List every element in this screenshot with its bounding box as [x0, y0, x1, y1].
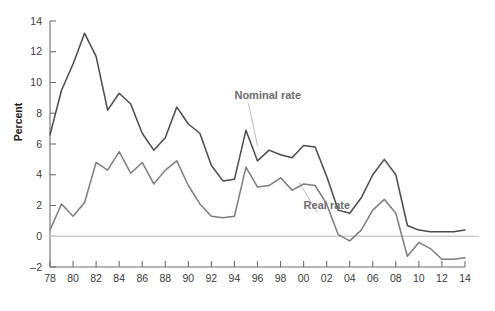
x-axis-tick-label: 86: [136, 272, 148, 284]
x-axis-tick-label: 12: [436, 272, 448, 284]
annotation-label-real-rate: Real rate: [304, 199, 350, 211]
y-axis-tick-label: 10: [30, 76, 42, 88]
x-axis-tick-label: 78: [44, 272, 56, 284]
x-axis-tick-label: 80: [67, 272, 79, 284]
x-axis-tick-label: 00: [298, 272, 310, 284]
y-axis-tick-label: 8: [36, 107, 42, 119]
y-axis-tick-label: 2: [36, 199, 42, 211]
x-axis-tick-label: 04: [344, 272, 356, 284]
y-axis-title: Percent: [12, 102, 24, 141]
annotation-label-nominal-rate: Nominal rate: [234, 89, 301, 101]
interest-rate-line-chart: –202468101214788082848688909294969800020…: [0, 0, 495, 311]
y-axis-tick-label: 6: [36, 138, 42, 150]
y-axis-tick-label: 4: [36, 168, 42, 180]
x-axis-tick-label: 84: [113, 272, 125, 284]
chart-plot-area: –202468101214788082848688909294969800020…: [0, 0, 495, 311]
series-group: [50, 33, 465, 259]
x-axis-tick-label: 82: [90, 272, 102, 284]
x-axis-tick-label: 10: [413, 272, 425, 284]
y-axis-tick-label: –2: [30, 261, 42, 273]
series-line-nominal-rate: [50, 33, 465, 231]
x-axis-tick-label: 90: [182, 272, 194, 284]
y-axis-tick-label: 12: [30, 45, 42, 57]
x-axis-tick-label: 98: [275, 272, 287, 284]
x-axis-tick-label: 02: [321, 272, 333, 284]
y-axis-tick-label: 0: [36, 230, 42, 242]
x-axis-tick-label: 88: [159, 272, 171, 284]
x-axis-tick-label: 06: [367, 272, 379, 284]
x-axis-tick-label: 08: [390, 272, 402, 284]
y-axis-tick-label: 14: [30, 15, 42, 27]
x-axis-tick-label: 92: [206, 272, 218, 284]
x-axis-tick-label: 94: [229, 272, 241, 284]
x-axis-tick-label: 14: [459, 272, 471, 284]
x-axis-tick-label: 96: [252, 272, 264, 284]
